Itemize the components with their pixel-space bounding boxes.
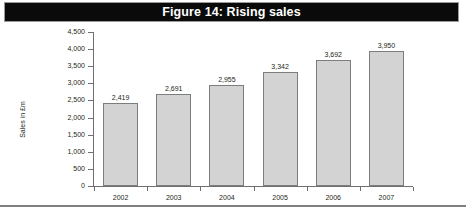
y-axis-tick-label: 3,000 <box>67 79 85 86</box>
x-axis-label: 2007 <box>360 194 413 201</box>
bar-value-label: 3,950 <box>378 42 396 49</box>
bar-value-label: 2,955 <box>218 76 236 83</box>
y-axis-tick <box>88 186 93 187</box>
y-axis-tick <box>88 49 93 50</box>
bar[interactable]: 2,955 <box>209 85 244 186</box>
x-axis-tick <box>94 187 95 191</box>
bar-value-label: 2,419 <box>112 94 130 101</box>
y-axis-tick-label: 3,500 <box>67 62 85 69</box>
y-axis-tick-label: 2,000 <box>67 114 85 121</box>
y-axis-tick-label: 4,000 <box>67 45 85 52</box>
bar[interactable]: 3,950 <box>369 51 404 186</box>
x-axis-tick <box>254 187 255 191</box>
y-axis-tick <box>88 152 93 153</box>
bar-value-label: 2,691 <box>165 85 183 92</box>
x-axis-tick <box>307 187 308 191</box>
x-axis-tick <box>360 187 361 191</box>
y-axis-tick <box>88 169 93 170</box>
y-axis-tick <box>88 135 93 136</box>
y-axis-tick <box>88 66 93 67</box>
x-axis-label: 2005 <box>254 194 307 201</box>
y-axis-tick <box>88 32 93 33</box>
page-title: Figure 14: Rising sales <box>162 6 300 19</box>
y-axis-title: Sales in £m <box>19 80 26 160</box>
bar-value-label: 3,342 <box>271 63 289 70</box>
x-axis-tick <box>200 187 201 191</box>
bottom-divider <box>0 205 466 207</box>
y-axis-tick-label: 0 <box>81 182 85 189</box>
bar[interactable]: 2,419 <box>103 103 138 186</box>
y-axis-tick-label: 2,500 <box>67 96 85 103</box>
figure-title-banner: Figure 14: Rising sales <box>4 2 459 22</box>
y-axis-tick-label: 500 <box>73 165 85 172</box>
bar-chart: Sales in £m 05001,0001,5002,0002,5003,00… <box>0 22 466 205</box>
x-axis-tick <box>147 187 148 191</box>
bar[interactable]: 2,691 <box>156 94 191 186</box>
y-axis-tick <box>88 100 93 101</box>
y-axis-tick <box>88 83 93 84</box>
y-axis-tick-label: 1,000 <box>67 148 85 155</box>
x-axis-label: 2006 <box>307 194 360 201</box>
x-axis-tick <box>413 187 414 191</box>
x-axis-label: 2002 <box>94 194 147 201</box>
y-axis-tick-label: 4,500 <box>67 28 85 35</box>
bar-value-label: 3,692 <box>324 51 342 58</box>
bar[interactable]: 3,342 <box>263 72 298 186</box>
plot-area: 2,4192,6912,9553,3423,6923,950 <box>94 32 413 186</box>
y-axis-tick <box>88 118 93 119</box>
x-axis-label: 2004 <box>200 194 253 201</box>
bar[interactable]: 3,692 <box>316 60 351 186</box>
y-axis-tick-label: 1,500 <box>67 131 85 138</box>
x-axis-label: 2003 <box>147 194 200 201</box>
